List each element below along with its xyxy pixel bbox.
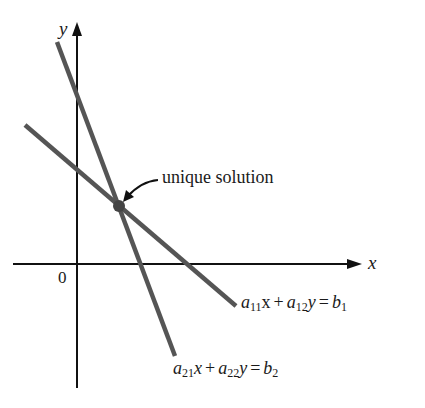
coef-a-sub: 21 xyxy=(182,366,194,380)
x-var: x xyxy=(194,358,202,378)
plus-sign: + xyxy=(202,358,218,378)
x-axis-label: x xyxy=(368,252,376,274)
coef-a-var: a xyxy=(173,358,182,378)
coef-a-sub: 22 xyxy=(227,366,239,380)
coef-a-var: a xyxy=(287,292,296,312)
coef-a-var: a xyxy=(241,292,250,312)
coef-a-sub: 11 xyxy=(250,300,262,314)
origin-label: 0 xyxy=(58,268,67,288)
equals-sign: = xyxy=(316,292,332,312)
y-axis-label: y xyxy=(59,18,67,40)
line-equation-1 xyxy=(25,125,236,306)
unique-solution-label: unique solution xyxy=(162,167,274,188)
b-sub: 2 xyxy=(272,366,278,380)
b-var: b xyxy=(263,358,272,378)
y-var: y xyxy=(308,292,316,312)
line-equation-2 xyxy=(57,42,175,356)
equation-1: a11x+a12y=b1 xyxy=(241,292,347,315)
graph-svg xyxy=(0,0,425,408)
y-axis-arrow-icon xyxy=(72,22,82,36)
plus-sign: + xyxy=(271,292,287,312)
coef-a-sub: 12 xyxy=(296,300,308,314)
equals-sign: = xyxy=(247,358,263,378)
b-var: b xyxy=(332,292,341,312)
coef-a-var: a xyxy=(218,358,227,378)
diagram-canvas: y x 0 unique solution a11x+a12y=b1 a21x+… xyxy=(0,0,425,408)
equation-2: a21x+a22y=b2 xyxy=(173,358,278,381)
x-var: x xyxy=(262,292,271,312)
y-var: y xyxy=(239,358,247,378)
b-sub: 1 xyxy=(341,300,347,314)
annotation-arrow xyxy=(127,180,158,197)
x-axis-arrow-icon xyxy=(347,259,362,269)
